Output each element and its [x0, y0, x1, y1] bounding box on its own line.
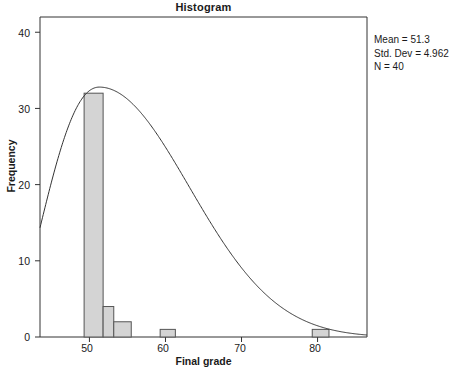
x-tick-marks	[89, 337, 317, 342]
histogram-bar	[103, 307, 114, 337]
plot-canvas	[0, 0, 457, 374]
histogram-figure: Histogram Frequency Final grade 40 30 20…	[0, 0, 457, 374]
histogram-bar	[160, 329, 175, 337]
histogram-bar	[312, 329, 329, 337]
histogram-bar	[114, 322, 131, 337]
histogram-bar	[84, 93, 103, 337]
y-tick-marks	[35, 32, 40, 337]
